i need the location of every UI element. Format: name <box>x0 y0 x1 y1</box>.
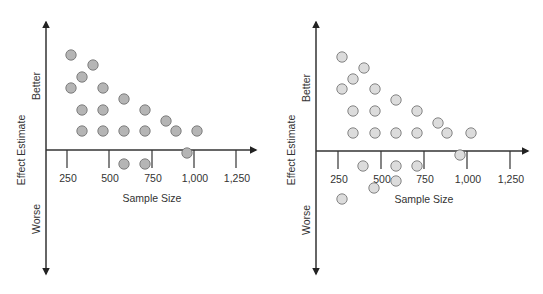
tick-label: 250 <box>59 172 77 184</box>
tick-label: 1,250 <box>224 172 250 184</box>
better-label: Better <box>30 71 42 100</box>
left-chart: 250 500 750 1,000 1,250 Sample Size Effe… <box>15 22 256 274</box>
tick-label: 750 <box>416 173 434 185</box>
x-tick-labels: 250 500 750 1,000 1,250 <box>330 173 524 185</box>
tick-label: 1,250 <box>498 173 524 185</box>
y-axis-title: Effect Estimate <box>15 115 27 186</box>
y-axis-title: Effect Estimate <box>285 115 297 186</box>
x-ticks <box>67 150 236 168</box>
funnel-plots: 250 500 750 1,000 1,250 Sample Size Effe… <box>0 0 543 294</box>
worse-label: Worse <box>300 205 312 235</box>
data-points <box>66 50 202 169</box>
tick-label: 500 <box>101 172 119 184</box>
tick-label: 1,000 <box>182 172 208 184</box>
better-label: Better <box>300 73 312 102</box>
x-axis-title: Sample Size <box>395 193 454 205</box>
x-tick-labels: 250 500 750 1,000 1,250 <box>59 172 250 184</box>
right-chart: 250 500 750 1,000 1,250 Sample Size Effe… <box>285 22 528 274</box>
x-axis-title: Sample Size <box>123 192 182 204</box>
tick-label: 750 <box>144 172 162 184</box>
worse-label: Worse <box>30 204 42 234</box>
tick-label: 1,000 <box>455 173 481 185</box>
tick-label: 250 <box>330 173 348 185</box>
